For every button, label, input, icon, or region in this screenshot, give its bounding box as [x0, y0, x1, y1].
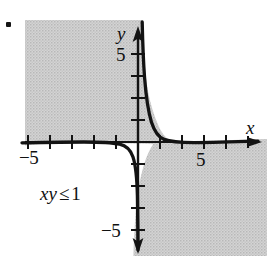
inequality-label: xy≤1: [40, 184, 81, 203]
inequality-operator: ≤: [57, 183, 71, 204]
y-axis-label: y: [117, 24, 125, 43]
figure-inequality-graph: y 5 x 5 −5 −5 xy≤1: [0, 0, 267, 256]
inequality-rhs: 1: [71, 183, 81, 204]
y-axis-tick-label-neg5: −5: [101, 221, 120, 240]
y-axis-tick-label-5: 5: [116, 45, 126, 64]
x-axis-tick-label-5: 5: [196, 150, 206, 169]
x-axis-tick-label-neg5: −5: [19, 148, 38, 167]
inequality-lhs: xy: [40, 183, 57, 204]
shaded-region-group: [25, 20, 267, 256]
x-axis-label: x: [246, 118, 254, 137]
graph-canvas: [0, 0, 267, 256]
